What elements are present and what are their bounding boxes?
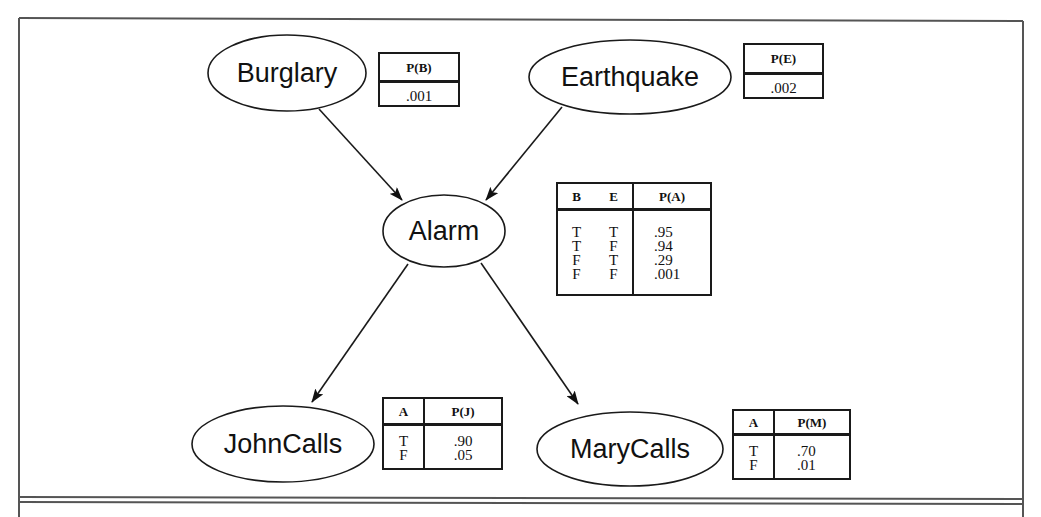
cpt-header: P(E) <box>771 51 796 67</box>
edge-burglary-alarm <box>319 109 402 200</box>
cpt-cond-header-b: B <box>572 189 581 205</box>
cpt-cell-a: F <box>399 448 407 462</box>
cpt-value: .002 <box>770 81 796 95</box>
cpt-cond-header-a: A <box>399 404 408 420</box>
cpt-earthquake: P(E) .002 <box>743 43 824 99</box>
node-marycalls: MaryCalls <box>537 412 723 486</box>
cpt-header: P(J) <box>451 404 474 420</box>
cpt-cell-b: T <box>572 239 581 253</box>
node-johncalls: JohnCalls <box>192 406 374 482</box>
cpt-cell-e: T <box>609 253 618 267</box>
edge-alarm-johncalls <box>312 264 408 402</box>
cpt-cell-a: T <box>749 444 758 458</box>
bayes-net-diagram: Burglary Earthquake Alarm JohnCalls Mary… <box>0 0 1041 517</box>
cpt-marycalls: A P(M) T F .70 .01 <box>732 409 851 480</box>
cpt-cell-a: F <box>749 458 757 472</box>
node-label: Earthquake <box>561 62 699 92</box>
cpt-cell-p: .90 <box>454 434 473 448</box>
cpt-cell-p: .01 <box>797 458 816 472</box>
cpt-cell-b: T <box>572 225 581 239</box>
node-label: Alarm <box>409 216 480 246</box>
node-earthquake: Earthquake <box>529 40 731 114</box>
cpt-cell-e: F <box>609 267 617 281</box>
node-label: Burglary <box>237 58 338 88</box>
cpt-cell-a: T <box>399 434 408 448</box>
cpt-cell-p: .94 <box>654 239 673 253</box>
cpt-johncalls: A P(J) T F .90 .05 <box>382 397 503 470</box>
cpt-cell-p: .001 <box>654 267 680 281</box>
cpt-cond-header-e: E <box>609 189 618 205</box>
node-label: MaryCalls <box>570 434 690 464</box>
cpt-cell-p: .29 <box>654 253 673 267</box>
cpt-cell-b: F <box>572 267 580 281</box>
node-burglary: Burglary <box>208 35 366 111</box>
figure-frame <box>19 18 1023 517</box>
cpt-value: .001 <box>406 89 432 103</box>
cpt-header: P(A) <box>659 189 685 205</box>
cpt-burglary: P(B) .001 <box>378 52 460 107</box>
cpt-cell-e: F <box>609 239 617 253</box>
cpt-cell-b: F <box>572 253 580 267</box>
cpt-cond-header-a: A <box>749 415 758 431</box>
cpt-header: P(M) <box>798 415 827 431</box>
cpt-cell-p: .70 <box>797 444 816 458</box>
cpt-cell-p: .95 <box>654 225 673 239</box>
cpt-alarm: B E P(A) T T F F T F T F .95 .94 .29 .00… <box>556 182 712 296</box>
node-alarm: Alarm <box>383 195 505 267</box>
cpt-cell-e: T <box>609 225 618 239</box>
node-label: JohnCalls <box>224 429 343 459</box>
edge-earthquake-alarm <box>486 107 562 200</box>
cpt-header: P(B) <box>406 60 431 76</box>
cpt-cell-p: .05 <box>454 448 473 462</box>
